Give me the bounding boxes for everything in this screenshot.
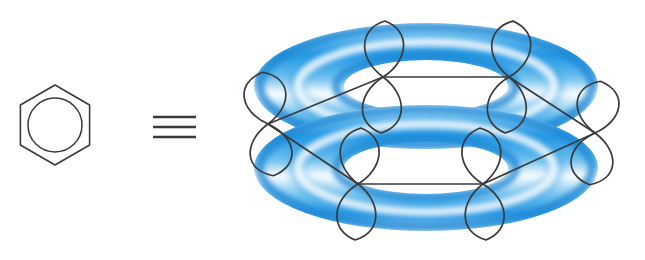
figure-canvas [0, 0, 645, 260]
benzene-pi-system-figure [0, 0, 645, 260]
lower-pi-torus [250, 102, 602, 234]
